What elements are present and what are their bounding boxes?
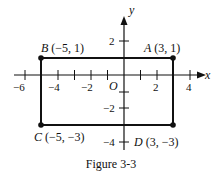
point-d-label: D(3, −3) — [133, 135, 178, 149]
x-tick-label: −4 — [48, 81, 60, 93]
y-tick-label: 2 — [109, 35, 115, 47]
point-a-label: A(3, 1) — [143, 41, 180, 55]
point-b — [38, 55, 44, 61]
point-c-label: C(−5, −3) — [34, 130, 85, 144]
svg-text:D(3, −3): D(3, −3) — [133, 135, 178, 149]
svg-text:A(3, 1): A(3, 1) — [143, 41, 180, 55]
x-axis-label: x — [204, 68, 211, 82]
svg-text:B(−5, 1): B(−5, 1) — [41, 41, 84, 55]
coordinate-figure: x y O −6 −4 −2 2 4 2 −2 −4 A(3, 1) B(−5,… — [0, 0, 222, 178]
y-axis-label: y — [128, 3, 135, 17]
point-d — [170, 122, 176, 128]
x-tick-label: 4 — [186, 81, 192, 93]
y-axis-arrow-icon — [121, 16, 128, 25]
x-tick-label: 2 — [153, 81, 159, 93]
point-b-label: B(−5, 1) — [41, 41, 84, 55]
figure-caption: Figure 3-3 — [86, 157, 136, 171]
point-a — [170, 55, 176, 61]
x-tick-label: −2 — [81, 81, 93, 93]
y-tick-label: −4 — [103, 136, 115, 148]
svg-text:C(−5, −3): C(−5, −3) — [34, 130, 85, 144]
point-c — [38, 122, 44, 128]
x-tick-label: −6 — [13, 81, 25, 93]
y-tick-label: −2 — [103, 102, 115, 114]
origin-label: O — [109, 79, 118, 93]
